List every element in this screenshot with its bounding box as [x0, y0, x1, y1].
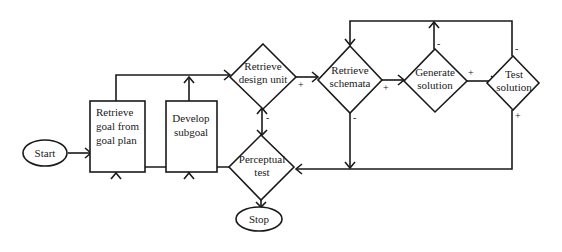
generate-solution-label-line2: solution	[417, 79, 453, 91]
test-minus-label: -	[515, 43, 518, 54]
flowchart-diagram: Start Retrieve goal from goal plan Devel…	[0, 0, 562, 252]
edge-retrieve-goal-to-design-unit	[116, 75, 230, 101]
develop-subgoal-label-line1: Develop	[172, 112, 210, 124]
design-unit-plus-label: +	[298, 79, 304, 90]
edge-test-to-perceptual-test	[296, 110, 512, 169]
retrieve-schemata-label-line2: schemata	[330, 77, 371, 89]
retrieve-schemata-label-line1: Retrieve	[331, 64, 368, 76]
node-develop-subgoal: Develop subgoal	[166, 101, 217, 172]
arrowhead-icon	[184, 173, 194, 179]
node-retrieve-goal: Retrieve goal from goal plan	[90, 101, 145, 172]
retrieve-goal-label-line3: goal plan	[96, 134, 137, 146]
test-solution-label-line2: solution	[496, 81, 532, 93]
node-retrieve-design-unit: Retrieve design unit	[230, 44, 296, 109]
node-retrieve-schemata: Retrieve schemata	[318, 46, 382, 113]
retrieve-design-unit-label-line2: design unit	[239, 73, 288, 85]
perceptual-test-label-line1: Perceptual	[239, 153, 285, 165]
develop-subgoal-label-line2: subgoal	[174, 126, 208, 138]
node-stop: Stop	[236, 207, 282, 231]
test-plus-label: +	[515, 110, 521, 121]
retrieve-goal-label-line1: Retrieve	[96, 106, 133, 118]
perceptual-test-label-line2: test	[254, 166, 269, 178]
start-label: Start	[35, 147, 56, 159]
node-perceptual-test: Perceptual test	[229, 135, 294, 200]
stop-label: Stop	[249, 213, 270, 225]
arrowhead-icon	[111, 173, 121, 179]
retrieve-design-unit-label-line1: Retrieve	[244, 60, 281, 72]
design-unit-minus-label: -	[266, 112, 269, 123]
generate-minus-label: -	[437, 38, 440, 49]
retrieve-goal-label-line2: goal from	[96, 120, 140, 132]
node-generate-solution: Generate solution	[404, 49, 467, 112]
test-solution-label-line1: Test	[505, 68, 523, 80]
node-test-solution: Test solution	[487, 56, 539, 110]
node-start: Start	[23, 140, 67, 166]
schemata-minus-label: -	[353, 112, 356, 123]
schemata-plus-label: +	[383, 82, 389, 93]
generate-plus-label: +	[468, 67, 474, 78]
generate-solution-label-line1: Generate	[415, 66, 455, 78]
